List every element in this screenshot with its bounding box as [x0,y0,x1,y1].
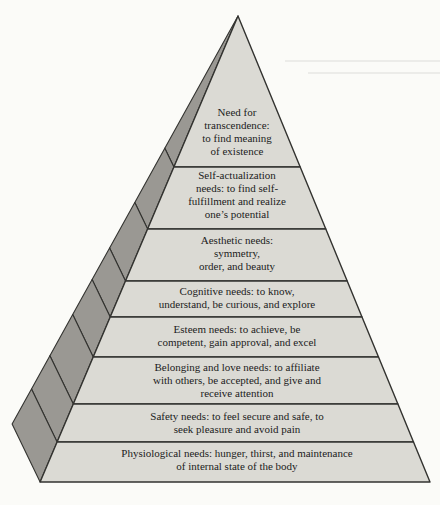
pyramid-level-label-self-actualization: Self-actualization needs: to find self- … [188,169,286,221]
pyramid-level-label-safety: Safety needs: to feel secure and safe, t… [150,410,323,436]
maslow-pyramid-figure: Need for transcendence: to find meaning … [0,0,440,505]
pyramid-level-label-esteem: Esteem needs: to achieve, be competent, … [158,323,317,349]
pyramid-level-label-physiological: Physiological needs: hunger, thirst, and… [121,447,352,473]
pyramid-level-label-cognitive: Cognitive needs: to know, understand, be… [159,285,315,311]
pyramid-level-label-belonging-love: Belonging and love needs: to affiliate w… [153,361,321,400]
pyramid-level-label-aesthetic: Aesthetic needs: symmetry, order, and be… [199,234,275,273]
pyramid-level-label-transcendence: Need for transcendence: to find meaning … [202,106,272,158]
